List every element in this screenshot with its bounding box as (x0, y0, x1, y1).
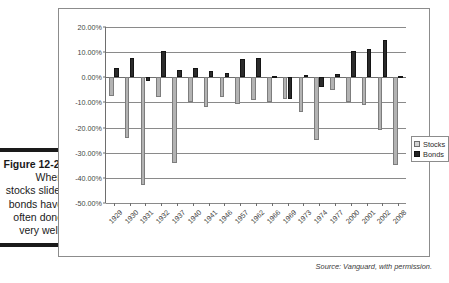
x-axis-label-1977: 1977 (328, 208, 346, 226)
bar-bonds-2008 (398, 76, 403, 78)
figure-caption-line-2: bonds have (0, 198, 63, 211)
x-tick-mark-2008 (398, 203, 399, 206)
chart-legend: StocksBonds (411, 136, 449, 162)
x-tick-mark-2001 (367, 203, 368, 206)
x-tick-mark-1937 (177, 203, 178, 206)
figure-caption-line-1: stocks slide, (0, 184, 63, 197)
x-axis-label-1973: 1973 (296, 208, 314, 226)
x-tick-mark-2000 (351, 203, 352, 206)
bar-bonds-1974 (319, 77, 324, 87)
x-axis-label-1946: 1946 (217, 208, 235, 226)
bonds-swatch-icon (414, 151, 420, 157)
x-axis-label-1930: 1930 (122, 208, 140, 226)
x-axis-label-2000: 2000 (343, 208, 361, 226)
bar-group-1957 (232, 27, 248, 203)
x-axis-label-1969: 1969 (280, 208, 298, 226)
bar-bonds-1966 (272, 76, 277, 78)
bar-group-1969 (280, 27, 296, 203)
legend-label-stocks: Stocks (423, 140, 445, 149)
bar-stocks-1940 (188, 77, 193, 102)
bar-group-1929 (106, 27, 122, 203)
bar-group-2000 (343, 27, 359, 203)
caption-rule-top (0, 148, 62, 152)
bar-group-1932 (153, 27, 169, 203)
y-tick-label-2: 0.00% (82, 73, 102, 82)
bar-bonds-1977 (335, 74, 340, 77)
x-axis-label-1966: 1966 (264, 208, 282, 226)
plot-area: 20.00%10.00%0.00%-10.00%-20.00%-30.00%-4… (105, 27, 406, 203)
bar-bonds-2001 (367, 49, 372, 77)
bar-group-1973 (295, 27, 311, 203)
bar-stocks-1932 (156, 77, 161, 97)
legend-label-bonds: Bonds (423, 150, 444, 159)
x-tick-mark-1966 (272, 203, 273, 206)
y-tick-label-6: -40.00% (75, 173, 102, 182)
x-tick-mark-1962 (256, 203, 257, 206)
bar-stocks-1941 (204, 77, 209, 107)
bar-group-1930 (122, 27, 138, 203)
x-axis-label-1929: 1929 (107, 208, 125, 226)
bars-layer (106, 27, 406, 203)
x-tick-mark-1932 (161, 203, 162, 206)
x-tick-mark-1946 (224, 203, 225, 206)
bar-stocks-1937 (172, 77, 177, 162)
bar-bonds-1941 (209, 71, 214, 77)
figure-caption-text: Figure 12-2: Whenstocks slide,bonds have… (0, 158, 64, 237)
bar-bonds-1937 (177, 70, 182, 77)
bar-bonds-1929 (114, 68, 119, 77)
bar-bonds-2000 (351, 51, 356, 77)
bar-stocks-2008 (393, 77, 398, 165)
figure-caption-line-4: very well. (0, 224, 63, 237)
bar-stocks-2002 (378, 77, 383, 130)
caption-rule-bottom (0, 243, 62, 247)
x-tick-mark-1941 (209, 203, 210, 206)
bar-group-1966 (264, 27, 280, 203)
bar-stocks-1946 (220, 77, 225, 97)
y-tick-label-1: 10.00% (78, 48, 102, 57)
figure-number: Figure 12-2: (0, 158, 63, 171)
bar-group-1941 (201, 27, 217, 203)
bar-stocks-1962 (251, 77, 256, 100)
x-axis-label-2001: 2001 (359, 208, 377, 226)
y-tick-label-0: 20.00% (78, 23, 102, 32)
x-axis-label-1932: 1932 (154, 208, 172, 226)
bar-bonds-1932 (161, 51, 166, 77)
x-axis-label-1974: 1974 (312, 208, 330, 226)
bar-bonds-1930 (130, 58, 135, 78)
legend-item-bonds[interactable]: Bonds (414, 149, 445, 159)
figure-caption-line-0: When (0, 171, 63, 184)
y-tick-label-5: -30.00% (75, 148, 102, 157)
stocks-swatch-icon (414, 141, 420, 147)
x-tick-mark-1940 (193, 203, 194, 206)
chart-frame: 20.00%10.00%0.00%-10.00%-20.00%-30.00%-4… (58, 8, 430, 257)
x-tick-mark-1957 (240, 203, 241, 206)
bar-group-1962 (248, 27, 264, 203)
bar-bonds-1957 (240, 59, 245, 77)
x-tick-mark-1973 (303, 203, 304, 206)
figure-caption-block: Figure 12-2: Whenstocks slide,bonds have… (0, 148, 64, 247)
legend-item-stocks[interactable]: Stocks (414, 139, 445, 149)
x-axis-label-2008: 2008 (391, 208, 409, 226)
bar-group-2001 (359, 27, 375, 203)
bar-group-2008 (390, 27, 406, 203)
y-tick-label-7: -50.00% (75, 199, 102, 208)
figure-caption-line-3: often done (0, 211, 63, 224)
bar-stocks-1930 (125, 77, 130, 137)
x-axis-label-1941: 1941 (201, 208, 219, 226)
bar-stocks-1931 (141, 77, 146, 185)
bar-group-1946 (217, 27, 233, 203)
bar-stocks-1929 (109, 77, 114, 96)
x-tick-mark-1969 (288, 203, 289, 206)
bar-stocks-1974 (314, 77, 319, 140)
bar-stocks-1969 (283, 77, 288, 98)
x-axis-label-1957: 1957 (233, 208, 251, 226)
x-axis-label-1931: 1931 (138, 208, 156, 226)
bar-bonds-1973 (304, 75, 309, 78)
x-axis-label-1962: 1962 (249, 208, 267, 226)
bar-group-2002 (374, 27, 390, 203)
y-tick-label-3: -10.00% (75, 98, 102, 107)
plot-wrapper: 20.00%10.00%0.00%-10.00%-20.00%-30.00%-4… (105, 27, 405, 203)
bar-stocks-2000 (346, 77, 351, 102)
x-axis-label-1940: 1940 (186, 208, 204, 226)
bar-bonds-2002 (383, 40, 388, 78)
